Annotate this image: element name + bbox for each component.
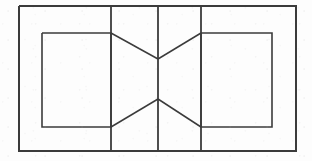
figure-canvas xyxy=(0,0,312,161)
line-drawing xyxy=(0,0,312,161)
figure-background xyxy=(0,0,312,161)
